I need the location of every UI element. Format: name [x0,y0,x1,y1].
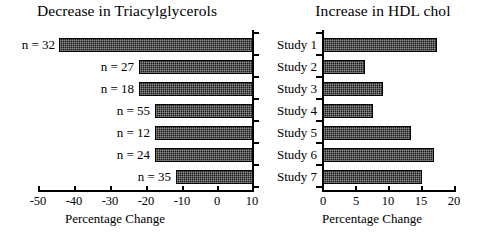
y-axis-tick [316,142,322,144]
x-axis-tick [252,186,254,192]
row-label: Study 7 [261,167,317,187]
y-axis-tick [253,120,259,122]
x-tick-label: -20 [126,194,166,209]
y-axis-tick [253,186,259,188]
bar [155,148,253,162]
bar [139,82,253,96]
panel-title-right: Increase in HDL chol [266,2,496,20]
x-axis-tick [421,186,423,192]
x-tick-label: 0 [197,194,237,209]
y-axis-tick [253,142,259,144]
table-row: n = 55 [0,100,262,122]
figure: Decrease in Triacylglycerols n = 32 n = … [0,0,496,241]
y-axis-tick [316,54,322,56]
table-row: Study 2 [262,56,496,78]
row-label: Study 1 [261,35,317,55]
x-axis-tick [110,186,112,192]
table-row: Study 3 [262,78,496,100]
table-row: n = 35 [0,166,262,188]
x-tick-label: -50 [18,194,58,209]
panel-title-left: Decrease in Triacylglycerols [0,2,258,20]
x-tick-label: -40 [54,194,94,209]
y-axis-tick [316,120,322,122]
x-axis-tick [322,186,324,192]
y-axis-line-right [322,30,324,188]
table-row: Study 6 [262,144,496,166]
table-row: n = 12 [0,122,262,144]
row-label: n = 35 [116,167,171,187]
x-tick-label: 20 [434,194,474,209]
y-axis-tick [316,98,322,100]
x-axis-tick [74,186,76,192]
row-label: n = 18 [79,79,134,99]
table-row: Study 7 [262,166,496,188]
y-axis-tick [253,76,259,78]
row-label: n = 24 [95,145,150,165]
bar [139,60,253,74]
bar [323,148,434,162]
bar [155,126,253,140]
panel-hdl-cholesterol: Increase in HDL chol Study 1 Study 2 Stu… [262,0,496,241]
table-row: Study 4 [262,100,496,122]
table-row: n = 24 [0,144,262,166]
row-label: Study 4 [261,101,317,121]
bar [323,104,373,118]
x-axis-tick [388,186,390,192]
plot-area-left: n = 32 n = 27 n = 18 n = 55 n = 12 n = 2 [0,30,262,190]
x-axis-tick [217,186,219,192]
x-axis-title-right: Percentage Change [255,211,489,227]
x-tick-label: -30 [90,194,130,209]
bar [323,126,411,140]
row-label: Study 3 [261,79,317,99]
y-axis-tick [253,164,259,166]
x-tick-label: -10 [162,194,202,209]
y-axis-tick [316,32,322,34]
row-label: Study 6 [261,145,317,165]
y-axis-tick [316,76,322,78]
table-row: Study 1 [262,34,496,56]
bar [155,104,253,118]
row-label: Study 2 [261,57,317,77]
y-axis-tick [253,98,259,100]
y-axis-tick [316,164,322,166]
x-axis-title-left: Percentage Change [0,211,246,227]
row-label: n = 12 [95,123,150,143]
plot-area-right: Study 1 Study 2 Study 3 Study 4 Study 5 [262,30,496,190]
x-axis-tick [355,186,357,192]
x-axis-tick [38,186,40,192]
y-axis-tick [253,54,259,56]
bar [323,170,422,184]
table-row: Study 5 [262,122,496,144]
bar [323,82,383,96]
bar [59,38,253,52]
x-axis-tick [454,186,456,192]
table-row: n = 18 [0,78,262,100]
bar [323,38,437,52]
table-row: n = 27 [0,56,262,78]
y-axis-tick [253,32,259,34]
row-label: n = 27 [79,57,134,77]
x-axis-tick [146,186,148,192]
bar [176,170,253,184]
x-axis-tick [182,186,184,192]
panel-triacylglycerols: Decrease in Triacylglycerols n = 32 n = … [0,0,262,241]
row-label: n = 32 [0,35,55,55]
bar [323,60,365,74]
table-row: n = 32 [0,34,262,56]
row-label: Study 5 [261,123,317,143]
row-label: n = 55 [95,101,150,121]
